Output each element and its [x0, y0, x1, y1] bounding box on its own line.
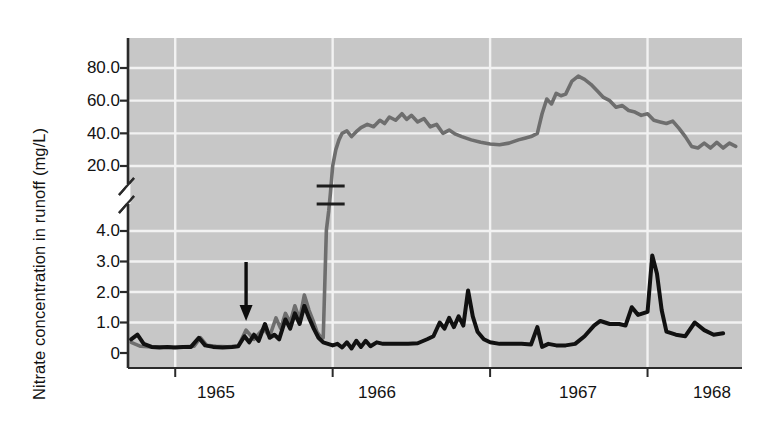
chart-figure: Nitrate concentration in runoff (mg/L) 8…: [0, 0, 760, 429]
plot-canvas: [0, 0, 760, 429]
plot-background: [128, 38, 742, 368]
plot-background-group: [128, 38, 742, 368]
